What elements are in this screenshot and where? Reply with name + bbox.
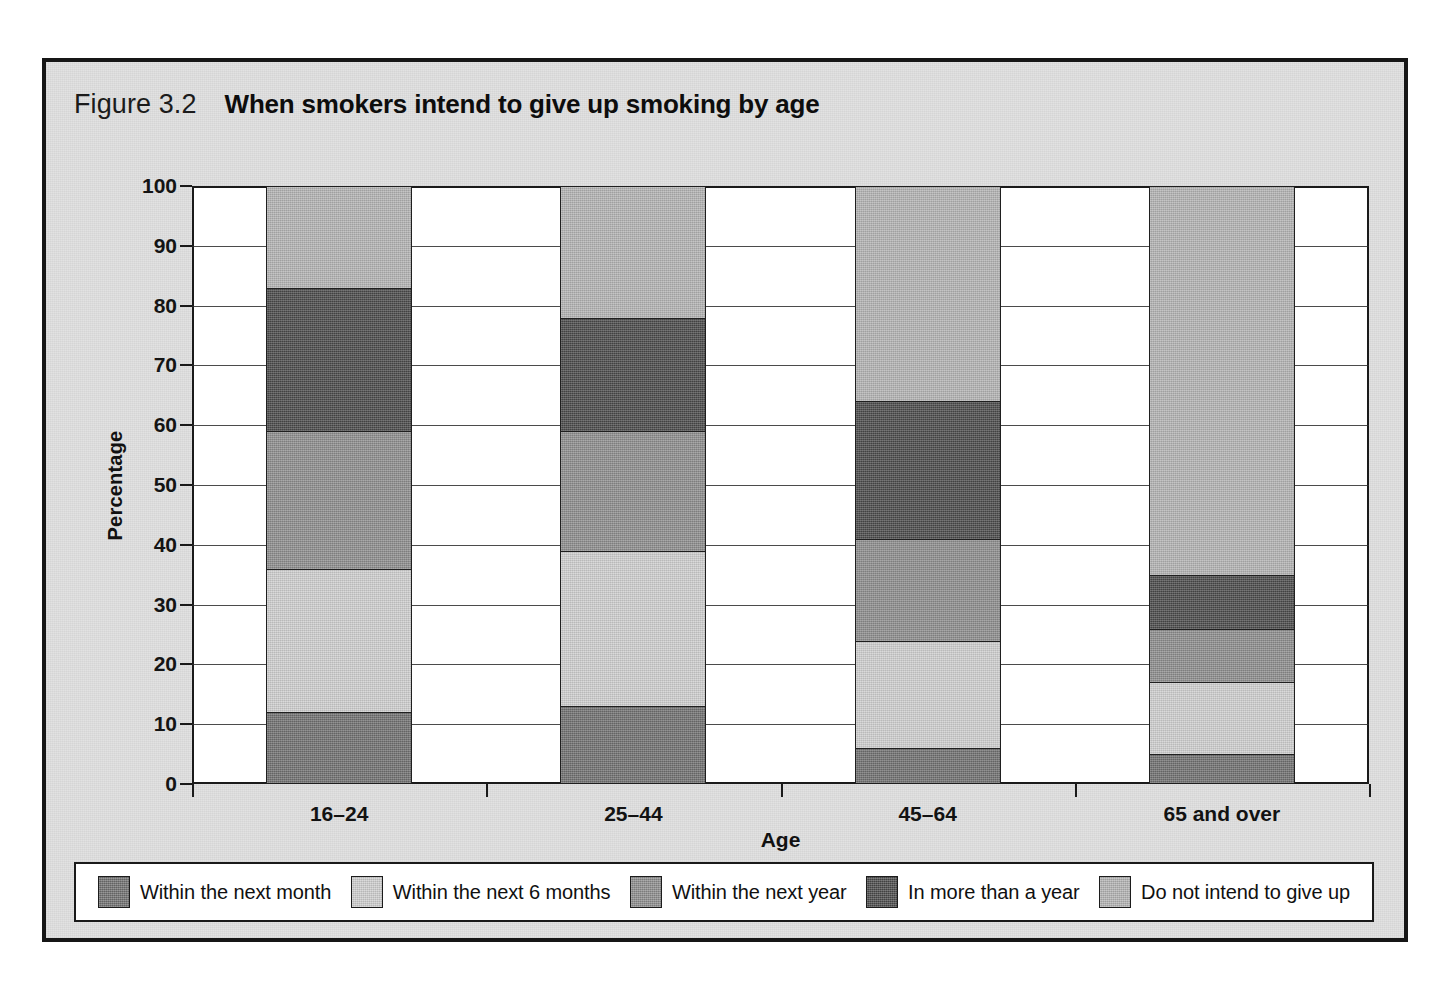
bar-segment	[560, 431, 706, 551]
plot-area: 0102030405060708090100	[192, 186, 1369, 784]
bar-segment	[560, 551, 706, 706]
bar-segment	[560, 706, 706, 784]
x-axis-tick-label: 16–24	[194, 802, 484, 826]
y-axis-tick-mark	[180, 484, 192, 486]
y-axis-tick-label: 80	[107, 294, 177, 318]
chart: Percentage 0102030405060708090100 16–242…	[46, 62, 1404, 938]
legend: Within the next monthWithin the next 6 m…	[74, 862, 1374, 922]
bar-65-and-over	[1149, 186, 1295, 784]
bar-segment	[855, 186, 1001, 401]
x-axis-tick-mark	[486, 784, 488, 797]
bar-segment	[1149, 754, 1295, 784]
bar-45–64	[855, 186, 1001, 784]
bar-segment	[855, 539, 1001, 641]
bar-segment	[266, 569, 412, 713]
bar-segment	[1149, 629, 1295, 683]
legend-swatch-icon	[98, 876, 130, 908]
bar-segment	[855, 641, 1001, 749]
bar-segment	[855, 748, 1001, 784]
y-axis-tick-mark	[180, 364, 192, 366]
legend-swatch-icon	[630, 876, 662, 908]
legend-swatch-icon	[351, 876, 383, 908]
y-axis-tick-label: 50	[107, 473, 177, 497]
bar-segment	[266, 288, 412, 432]
x-axis-tick-mark	[192, 784, 194, 797]
bar-segment	[560, 186, 706, 318]
x-axis-tick-label: 65 and over	[1077, 802, 1367, 826]
y-axis-tick-mark	[180, 424, 192, 426]
bar-segment	[266, 186, 412, 288]
y-axis-tick-label: 90	[107, 234, 177, 258]
y-axis-tick-mark	[180, 783, 192, 785]
figure-panel: Figure 3.2 When smokers intend to give u…	[42, 58, 1408, 942]
y-axis-tick-mark	[180, 305, 192, 307]
bar-segment	[266, 712, 412, 784]
legend-swatch-icon	[866, 876, 898, 908]
x-axis-tick-label: 25–44	[488, 802, 778, 826]
figure-heading: Figure 3.2 When smokers intend to give u…	[74, 89, 819, 120]
y-axis-tick-label: 0	[107, 772, 177, 796]
legend-label: Within the next month	[140, 881, 331, 904]
bar-segment	[1149, 575, 1295, 629]
x-axis-tick-mark	[781, 784, 783, 797]
bar-segment	[560, 318, 706, 432]
y-axis-tick-mark	[180, 185, 192, 187]
legend-item[interactable]: Do not intend to give up	[1099, 876, 1350, 908]
bar-segment	[1149, 682, 1295, 754]
bar-segment	[855, 401, 1001, 539]
y-axis-tick-mark	[180, 723, 192, 725]
legend-label: In more than a year	[908, 881, 1080, 904]
y-axis-tick-mark	[180, 245, 192, 247]
x-axis-tick-mark	[1075, 784, 1077, 797]
legend-item[interactable]: Within the next month	[98, 876, 331, 908]
legend-item[interactable]: Within the next year	[630, 876, 847, 908]
bar-segment	[266, 431, 412, 569]
x-axis-tick-mark	[1369, 784, 1371, 797]
legend-item[interactable]: In more than a year	[866, 876, 1080, 908]
bar-16–24	[266, 186, 412, 784]
legend-label: Within the next 6 months	[393, 881, 611, 904]
x-axis-tick-label: 45–64	[783, 802, 1073, 826]
legend-label: Within the next year	[672, 881, 847, 904]
y-axis-tick-label: 70	[107, 353, 177, 377]
legend-swatch-icon	[1099, 876, 1131, 908]
figure-title: When smokers intend to give up smoking b…	[225, 89, 820, 120]
y-axis-tick-label: 10	[107, 712, 177, 736]
y-axis-tick-mark	[180, 604, 192, 606]
y-axis-tick-mark	[180, 663, 192, 665]
y-axis-tick-label: 40	[107, 533, 177, 557]
y-axis-tick-mark	[180, 544, 192, 546]
y-axis-tick-label: 100	[107, 174, 177, 198]
y-axis-tick-label: 30	[107, 593, 177, 617]
bar-25–44	[560, 186, 706, 784]
y-axis-tick-label: 20	[107, 652, 177, 676]
bar-segment	[1149, 186, 1295, 575]
legend-item[interactable]: Within the next 6 months	[351, 876, 611, 908]
legend-label: Do not intend to give up	[1141, 881, 1350, 904]
x-axis-title: Age	[192, 828, 1369, 852]
y-axis-tick-label: 60	[107, 413, 177, 437]
figure-number: Figure 3.2	[74, 89, 197, 120]
